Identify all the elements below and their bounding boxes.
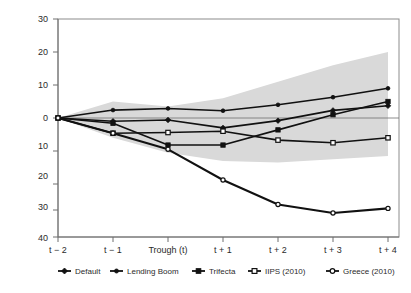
data-point-marker <box>331 113 335 117</box>
data-point-marker <box>331 211 335 215</box>
x-tick-label: Trough (t) <box>148 245 187 255</box>
chart-legend: DefaultLending BoomTrifectaIIPS (2010)Gr… <box>58 267 395 276</box>
data-point-marker <box>221 109 225 113</box>
y-tick-label-0: 0 <box>43 113 48 123</box>
y-tick-label-20: 20 <box>38 47 48 57</box>
data-point-marker <box>166 143 170 147</box>
data-point-marker <box>386 136 390 140</box>
y-axis-ticks: 30 20 10 0 10 20 30 40 <box>38 14 58 243</box>
data-point-marker <box>166 147 170 151</box>
data-point-marker <box>276 103 280 107</box>
data-point-marker <box>111 108 115 112</box>
legend-item-label: Trifecta <box>209 267 236 276</box>
data-point-marker <box>331 95 335 99</box>
legend-item-label: Default <box>75 267 101 276</box>
y-tick-label-10: 10 <box>38 80 48 90</box>
x-tick-label: t − 1 <box>104 245 122 255</box>
data-point-marker <box>386 86 390 90</box>
x-tick-label: t + 3 <box>324 245 342 255</box>
data-point-marker <box>221 143 225 147</box>
data-point-marker <box>166 107 170 111</box>
x-tick-label: t − 2 <box>49 245 67 255</box>
data-point-marker <box>331 141 335 145</box>
legend-item-trifecta[interactable]: Trifecta <box>192 267 236 276</box>
data-point-marker <box>386 99 390 103</box>
data-point-marker <box>276 202 280 206</box>
y-tick-label-neg10: 10 <box>38 141 48 151</box>
data-point-marker <box>221 178 225 182</box>
legend-item-iips-2010[interactable]: IIPS (2010) <box>248 267 306 276</box>
data-point-marker <box>166 130 170 134</box>
y-tick-label-neg40: 40 <box>38 233 48 243</box>
data-point-marker <box>276 128 280 132</box>
legend-marker-icon <box>196 269 201 274</box>
legend-item-default[interactable]: Default <box>58 267 101 276</box>
data-point-marker <box>111 131 115 135</box>
legend-item-label: Lending Boom <box>127 267 179 276</box>
y-tick-label-neg30: 30 <box>38 202 48 212</box>
legend-marker-icon <box>330 269 335 274</box>
legend-marker-icon <box>62 268 68 274</box>
legend-marker-icon <box>252 269 257 274</box>
x-tick-label: t + 4 <box>379 245 397 255</box>
legend-item-label: IIPS (2010) <box>265 267 306 276</box>
data-point-marker <box>56 116 60 120</box>
y-tick-label-30: 30 <box>38 14 48 24</box>
legend-item-label: Greece (2010) <box>343 267 395 276</box>
legend-item-lending-boom[interactable]: Lending Boom <box>110 267 179 276</box>
data-point-marker <box>111 121 115 125</box>
legend-item-greece-2010[interactable]: Greece (2010) <box>326 267 395 276</box>
legend-marker-icon <box>114 269 118 273</box>
data-point-marker <box>221 129 225 133</box>
data-point-marker <box>276 138 280 142</box>
x-tick-label: t + 1 <box>214 245 232 255</box>
x-tick-label: t + 2 <box>269 245 287 255</box>
line-chart-plot: 30 20 10 0 10 20 30 40 t − 2t − 1Trough … <box>0 0 411 293</box>
chart-container: 30 20 10 0 10 20 30 40 t − 2t − 1Trough … <box>0 0 411 293</box>
data-point-marker <box>386 206 390 210</box>
y-tick-label-neg20: 20 <box>38 171 48 181</box>
x-axis-ticks: t − 2t − 1Trough (t)t + 1t + 2t + 3t + 4 <box>49 237 397 255</box>
